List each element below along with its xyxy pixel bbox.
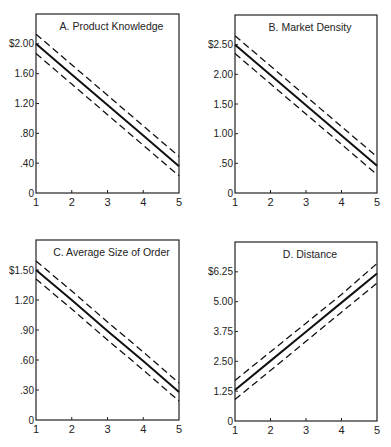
y-tick-label: 1.20 [15, 98, 35, 109]
x-tick-label: 2 [267, 424, 273, 436]
panel-product-knowledge: A. Product Knowledge 0.40.801.201.60$2.0… [9, 14, 182, 208]
y-tick-label: $6.25 [208, 266, 233, 277]
estimate-line [36, 44, 179, 166]
estimate-line [235, 45, 377, 166]
x-tick-label: 4 [338, 424, 344, 436]
y-tick-label: .80 [20, 128, 34, 139]
x-tick-label: 2 [267, 196, 273, 208]
x-tick-label: 5 [374, 196, 380, 208]
chart-grid: A. Product Knowledge 0.40.801.201.60$2.0… [0, 0, 391, 447]
y-tick-label: 1.60 [15, 68, 35, 79]
y-tick-label: .60 [20, 355, 34, 366]
x-tick-label: 1 [33, 423, 39, 435]
panel-distance: D. Distance 01.252.503.755.00$6.2512345 [208, 242, 380, 436]
panel-title: B. Market Density [269, 21, 353, 33]
confidence-bound-line [36, 279, 179, 401]
panel-average-size-of-order: C. Average Size of Order 0.30.60.901.20$… [9, 240, 182, 435]
x-tick-label: 4 [140, 423, 146, 435]
panel-market-density: B. Market Density 0.501.001.502.00$2.501… [208, 15, 380, 208]
y-tick-label: 2.00 [214, 69, 234, 80]
x-tick-label: 3 [303, 196, 309, 208]
confidence-bound-line [36, 261, 179, 383]
plot-frame [36, 14, 179, 193]
y-tick-label: $2.50 [208, 39, 233, 50]
panel-title: C. Average Size of Order [53, 246, 170, 258]
x-tick-label: 5 [176, 423, 182, 435]
x-tick-label: 2 [69, 196, 75, 208]
panel-title: A. Product Knowledge [60, 20, 164, 32]
panel-title: D. Distance [283, 248, 337, 260]
confidence-bound-line [36, 34, 179, 156]
y-tick-label: $1.50 [9, 265, 34, 276]
confidence-bound-line [235, 54, 377, 175]
estimate-line [235, 274, 377, 390]
confidence-bound-line [36, 54, 179, 176]
y-tick-label: 3.75 [214, 326, 234, 337]
x-tick-label: 5 [374, 424, 380, 436]
x-tick-label: 1 [232, 424, 238, 436]
x-tick-label: 5 [176, 196, 182, 208]
confidence-bound-line [235, 263, 377, 380]
y-tick-label: .90 [20, 325, 34, 336]
y-tick-label: $2.00 [9, 38, 34, 49]
estimate-line [36, 270, 179, 392]
x-tick-label: 1 [232, 196, 238, 208]
confidence-bound-line [235, 283, 377, 399]
x-tick-label: 3 [104, 196, 110, 208]
y-tick-label: 1.20 [15, 295, 35, 306]
y-tick-label: .50 [219, 158, 233, 169]
y-tick-label: 2.50 [214, 356, 234, 367]
y-tick-label: 1.50 [214, 99, 234, 110]
x-tick-label: 3 [303, 424, 309, 436]
x-tick-label: 4 [338, 196, 344, 208]
x-tick-label: 4 [140, 196, 146, 208]
x-tick-label: 2 [69, 423, 75, 435]
confidence-bound-line [235, 36, 377, 157]
y-tick-label: 1.00 [214, 128, 234, 139]
y-tick-label: .30 [20, 385, 34, 396]
y-tick-label: 1.25 [214, 386, 234, 397]
y-tick-label: .40 [20, 158, 34, 169]
x-tick-label: 3 [104, 423, 110, 435]
x-tick-label: 1 [33, 196, 39, 208]
y-tick-label: 5.00 [214, 296, 234, 307]
